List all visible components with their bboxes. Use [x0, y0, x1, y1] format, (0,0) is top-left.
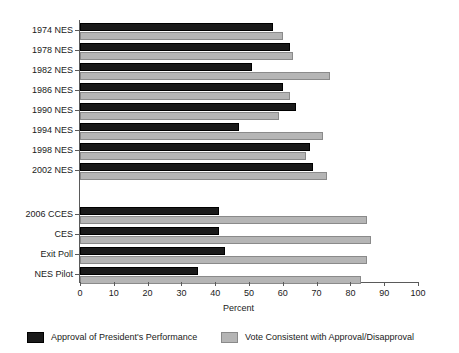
- bar-vote-consistent: [80, 72, 330, 80]
- x-axis-tick: [350, 282, 351, 286]
- x-axis-tick: [114, 282, 115, 286]
- x-axis-tick-label: 0: [65, 288, 95, 299]
- bar-vote-consistent: [80, 52, 293, 60]
- x-axis-tick: [249, 282, 250, 286]
- legend-label-vote-consistent: Vote Consistent with Approval/Disapprova…: [245, 332, 414, 343]
- chart-legend: Approval of President's Performance Vote…: [0, 329, 459, 349]
- bar-approval: [80, 247, 225, 255]
- x-axis-tick-label: 30: [166, 288, 196, 299]
- category-label: 1974 NES: [0, 25, 73, 35]
- bar-vote-consistent: [80, 112, 279, 120]
- x-axis-title: Percent: [0, 303, 459, 313]
- bar-vote-consistent: [80, 276, 361, 284]
- x-axis-tick-label: 70: [302, 288, 332, 299]
- bar-vote-consistent: [80, 172, 327, 180]
- category-label: 1994 NES: [0, 125, 73, 135]
- bar-vote-consistent: [80, 132, 323, 140]
- category-label: 1978 NES: [0, 45, 73, 55]
- x-axis-tick: [317, 282, 318, 286]
- y-axis-tick: [75, 274, 80, 275]
- legend-item-vote-consistent: Vote Consistent with Approval/Disapprova…: [221, 329, 414, 345]
- category-label: 1990 NES: [0, 105, 73, 115]
- category-label: 2002 NES: [0, 165, 73, 175]
- x-axis-tick: [215, 282, 216, 286]
- bar-approval: [80, 267, 198, 275]
- bar-vote-consistent: [80, 216, 367, 224]
- category-label: Exit Poll: [0, 249, 73, 259]
- x-axis-title-text: Percent: [223, 303, 254, 313]
- x-axis-tick: [418, 282, 419, 286]
- dark-swatch-icon: [27, 332, 44, 343]
- bar-vote-consistent: [80, 32, 283, 40]
- y-axis-tick: [75, 214, 80, 215]
- category-label: CES: [0, 229, 73, 239]
- bar-approval: [80, 207, 219, 215]
- x-axis-tick-label: 20: [133, 288, 163, 299]
- bar-chart: 1974 NES1978 NES1982 NES1986 NES1990 NES…: [0, 0, 459, 353]
- x-axis-tick-label: 80: [335, 288, 365, 299]
- bar-approval: [80, 63, 252, 71]
- x-axis-tick-label: 50: [234, 288, 264, 299]
- category-label: 2006 CCES: [0, 209, 73, 219]
- x-axis-tick-label: 40: [200, 288, 230, 299]
- y-axis-tick: [75, 130, 80, 131]
- y-axis-tick: [75, 30, 80, 31]
- y-axis-tick: [75, 150, 80, 151]
- bar-approval: [80, 163, 313, 171]
- bar-vote-consistent: [80, 92, 290, 100]
- category-label: 1982 NES: [0, 65, 73, 75]
- bar-approval: [80, 83, 283, 91]
- y-axis-tick: [75, 90, 80, 91]
- x-axis-tick: [283, 282, 284, 286]
- category-label: NES Pilot: [0, 269, 73, 279]
- category-label: 1998 NES: [0, 145, 73, 155]
- legend-label-approval: Approval of President's Performance: [51, 332, 197, 343]
- x-axis-tick: [181, 282, 182, 286]
- bar-vote-consistent: [80, 256, 367, 264]
- legend-item-approval: Approval of President's Performance: [27, 329, 197, 345]
- x-axis-tick: [148, 282, 149, 286]
- y-axis-tick: [75, 254, 80, 255]
- y-axis-tick: [75, 70, 80, 71]
- bar-vote-consistent: [80, 236, 371, 244]
- bar-approval: [80, 43, 290, 51]
- bar-approval: [80, 227, 219, 235]
- light-swatch-icon: [221, 332, 238, 343]
- bar-approval: [80, 23, 273, 31]
- bar-approval: [80, 123, 239, 131]
- x-axis-tick-label: 10: [99, 288, 129, 299]
- y-axis-tick: [75, 110, 80, 111]
- x-axis-tick: [80, 282, 81, 286]
- x-axis-tick-label: 60: [268, 288, 298, 299]
- x-axis-tick: [384, 282, 385, 286]
- y-axis-tick: [75, 234, 80, 235]
- bar-approval: [80, 143, 310, 151]
- category-label: 1986 NES: [0, 85, 73, 95]
- bar-vote-consistent: [80, 152, 306, 160]
- bar-approval: [80, 103, 296, 111]
- y-axis-tick: [75, 50, 80, 51]
- x-axis-tick-label: 100: [403, 288, 433, 299]
- y-axis-tick: [75, 170, 80, 171]
- x-axis-tick-label: 90: [369, 288, 399, 299]
